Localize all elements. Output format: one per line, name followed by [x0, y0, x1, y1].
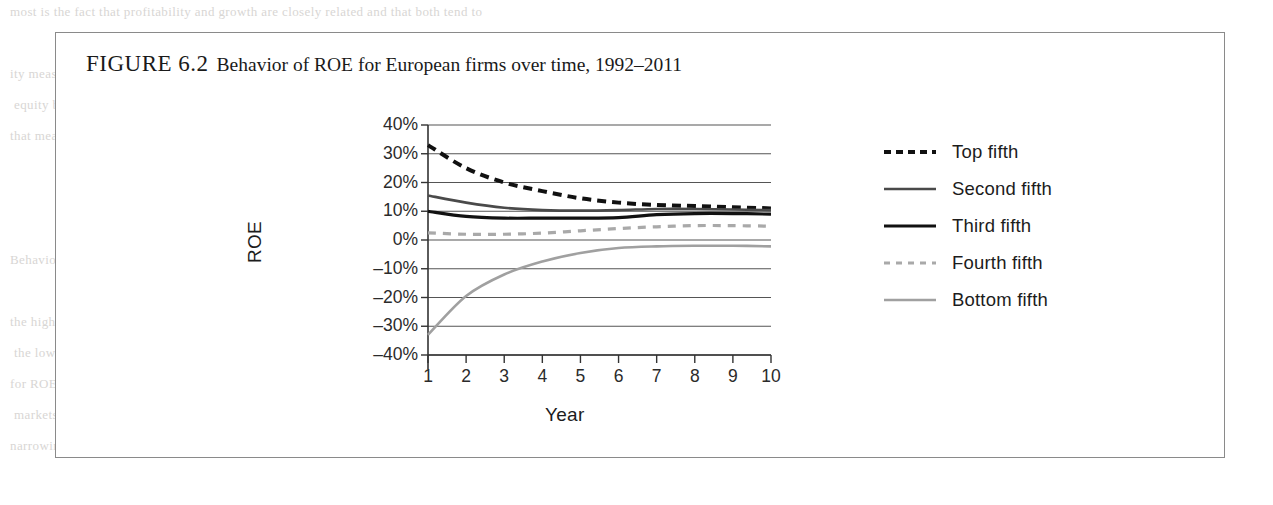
legend-item-4[interactable]: Fourth fifth	[884, 244, 1184, 281]
figure-box: FIGURE 6.2Behavior of ROE for European f…	[55, 32, 1225, 458]
series-line-3	[428, 211, 771, 218]
legend-label: Bottom fifth	[952, 289, 1048, 311]
chart-legend: Top fifthSecond fifthThird fifthFourth f…	[884, 133, 1184, 318]
legend-item-1[interactable]: Top fifth	[884, 133, 1184, 170]
series-line-1	[428, 145, 771, 208]
series-line-4	[428, 226, 771, 235]
legend-label: Fourth fifth	[952, 252, 1043, 274]
legend-label: Third fifth	[952, 215, 1031, 237]
series-line-5	[428, 246, 771, 335]
legend-item-5[interactable]: Bottom fifth	[884, 281, 1184, 318]
figure-label: FIGURE 6.2	[86, 51, 209, 76]
legend-line-swatch	[884, 183, 936, 195]
legend-line-swatch	[884, 220, 936, 232]
bleed-text-line: most is the fact that profitability and …	[10, 4, 482, 20]
legend-line-swatch	[884, 294, 936, 306]
legend-line-swatch	[884, 146, 936, 158]
legend-item-2[interactable]: Second fifth	[884, 170, 1184, 207]
legend-item-3[interactable]: Third fifth	[884, 207, 1184, 244]
figure-title: FIGURE 6.2Behavior of ROE for European f…	[86, 51, 682, 77]
legend-line-swatch	[884, 257, 936, 269]
chart-area: ROE Year 40%30%20%10%0%–10%–20%–30%–40% …	[196, 111, 1206, 431]
legend-label: Top fifth	[952, 141, 1019, 163]
legend-label: Second fifth	[952, 178, 1052, 200]
figure-caption: Behavior of ROE for European firms over …	[217, 54, 683, 75]
series-line-2	[428, 195, 771, 210]
